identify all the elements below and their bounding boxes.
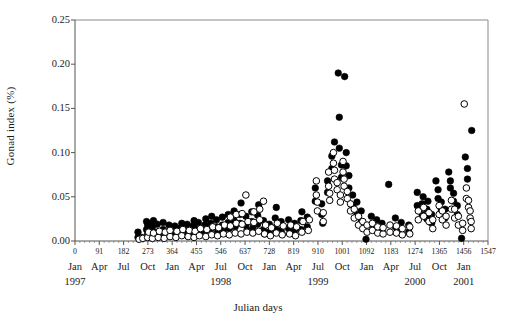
x-year-label: 1997 xyxy=(51,276,99,288)
data-point-filled xyxy=(335,70,342,77)
data-point-open xyxy=(443,213,450,220)
data-point-filled xyxy=(299,209,306,216)
data-point-open xyxy=(314,199,321,206)
data-point-open xyxy=(299,229,306,236)
data-point-open xyxy=(459,227,466,234)
data-point-filled xyxy=(331,139,338,146)
data-point-open xyxy=(455,213,462,220)
data-point-open xyxy=(197,225,204,232)
data-point-open xyxy=(178,232,185,239)
data-point-filled xyxy=(341,73,348,80)
data-point-open xyxy=(256,216,263,223)
data-point-open xyxy=(196,232,203,239)
data-point-open xyxy=(325,183,332,190)
data-point-open xyxy=(239,210,246,217)
data-point-open xyxy=(380,224,387,231)
data-point-filled xyxy=(154,221,161,228)
x-year-label: 2000 xyxy=(391,276,439,288)
data-point-filled xyxy=(458,235,465,242)
data-point-open xyxy=(306,216,313,223)
data-point-open xyxy=(334,179,341,186)
data-point-filled xyxy=(385,181,392,188)
data-point-open xyxy=(443,222,450,229)
data-point-open xyxy=(243,192,250,199)
data-point-open xyxy=(326,197,333,204)
data-point-filled xyxy=(450,190,457,197)
data-point-open xyxy=(337,192,344,199)
data-point-open xyxy=(406,224,413,231)
y-tick-label: 0.00 xyxy=(24,236,70,246)
data-point-open xyxy=(256,206,263,213)
data-point-open xyxy=(448,197,455,204)
data-point-open xyxy=(180,226,187,233)
data-point-open xyxy=(465,197,472,204)
data-point-filled xyxy=(462,154,469,161)
data-point-open xyxy=(167,227,174,234)
data-point-open xyxy=(330,149,337,156)
data-point-open xyxy=(337,199,344,206)
data-point-open xyxy=(426,209,433,216)
data-point-open xyxy=(459,220,466,227)
data-point-open xyxy=(468,218,475,225)
data-point-open xyxy=(406,231,413,238)
data-point-open xyxy=(330,160,337,167)
data-point-open xyxy=(429,216,436,223)
data-point-open xyxy=(293,224,300,231)
data-point-filled xyxy=(445,169,452,176)
data-point-open xyxy=(341,176,348,183)
y-tick-label: 0.20 xyxy=(24,59,70,69)
data-point-filled xyxy=(354,199,361,206)
data-point-open xyxy=(399,232,406,239)
data-point-open xyxy=(461,101,468,108)
x-axis-title: Julian days xyxy=(0,301,516,313)
data-point-open xyxy=(280,223,287,230)
data-point-filled xyxy=(392,215,399,222)
data-point-filled xyxy=(238,200,245,207)
data-point-open xyxy=(387,229,394,236)
data-point-open xyxy=(320,218,327,225)
y-tick-label: 0.05 xyxy=(24,192,70,202)
data-point-open xyxy=(313,178,320,185)
x-year-label: 1998 xyxy=(197,276,245,288)
data-point-filled xyxy=(468,127,475,134)
data-point-filled xyxy=(273,204,280,211)
data-point-open xyxy=(331,167,338,174)
y-tick-label: 0.25 xyxy=(24,15,70,25)
data-point-open xyxy=(463,185,470,192)
data-point-filled xyxy=(363,236,370,243)
data-point-filled xyxy=(312,185,319,192)
data-point-open xyxy=(260,198,267,205)
data-point-open xyxy=(340,169,347,176)
data-point-filled xyxy=(425,198,432,205)
data-point-open xyxy=(387,222,394,229)
x-year-label: 2001 xyxy=(440,276,488,288)
x-month-label: Jan xyxy=(447,261,481,273)
data-point-filled xyxy=(343,149,350,156)
y-tick-label: 0.15 xyxy=(24,103,70,113)
data-point-open xyxy=(399,225,406,232)
data-point-open xyxy=(313,192,320,199)
y-axis-title: Gonad index (%) xyxy=(4,0,20,46)
data-point-open xyxy=(420,204,427,211)
data-point-filled xyxy=(195,219,202,226)
x-year-label: 1999 xyxy=(294,276,342,288)
data-point-filled xyxy=(414,189,421,196)
data-point-open xyxy=(340,158,347,165)
data-point-open xyxy=(292,232,299,239)
data-point-filled xyxy=(464,165,471,172)
data-point-open xyxy=(344,188,351,195)
data-point-open xyxy=(429,225,436,232)
data-point-open xyxy=(268,224,275,231)
data-point-open xyxy=(380,231,387,238)
data-point-filled xyxy=(464,176,471,183)
data-point-filled xyxy=(336,145,343,152)
data-point-open xyxy=(326,190,333,197)
data-point-filled xyxy=(433,178,440,185)
data-point-open xyxy=(305,227,312,234)
data-point-open xyxy=(320,209,327,216)
y-tick-label: 0.10 xyxy=(24,148,70,158)
data-point-open xyxy=(467,208,474,215)
x-tick-label: 1547 xyxy=(473,247,503,256)
data-point-open xyxy=(279,232,286,239)
data-point-open xyxy=(300,218,307,225)
